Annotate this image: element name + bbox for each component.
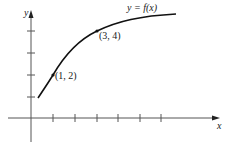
curve-label: y = f(x)	[126, 2, 158, 14]
x-axis: x	[8, 114, 222, 131]
y-axis-arrow-icon	[29, 10, 34, 18]
x-axis-label: x	[216, 120, 222, 131]
point-1-2-label: (1, 2)	[55, 70, 77, 82]
y-axis-label: y	[23, 7, 29, 18]
function-curve	[38, 14, 176, 98]
y-axis: y	[23, 7, 35, 142]
function-graph: x y (1, 2) (3, 4) y = f(x)	[0, 0, 227, 144]
point-3-4-label: (3, 4)	[99, 30, 121, 42]
